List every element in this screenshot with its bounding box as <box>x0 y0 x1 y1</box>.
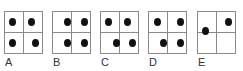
dot-icon <box>225 18 232 26</box>
dot-icon <box>81 18 88 26</box>
dot-icon <box>9 39 16 47</box>
grid-box <box>148 11 187 54</box>
dot-icon <box>177 18 184 26</box>
option-a <box>4 11 42 53</box>
option-e <box>197 11 235 53</box>
dot-icon <box>129 39 136 47</box>
dot-icon <box>81 39 88 47</box>
dot-icon <box>124 18 131 26</box>
dot-icon <box>202 27 209 35</box>
dot-icon <box>105 18 112 26</box>
dot-icon <box>28 18 35 26</box>
dot-icon <box>9 18 16 26</box>
grid-divider-horizontal <box>53 32 90 33</box>
grid-box <box>197 11 236 54</box>
grid-divider-horizontal <box>149 32 186 33</box>
dot-icon <box>64 18 71 26</box>
grid-box <box>100 11 139 54</box>
option-b <box>52 11 90 53</box>
dot-icon <box>177 39 184 47</box>
grid-divider-horizontal <box>101 32 138 33</box>
dot-icon <box>113 39 120 47</box>
grid-box <box>4 11 43 54</box>
dot-icon <box>154 18 161 26</box>
option-c <box>100 11 138 53</box>
option-label: B <box>53 57 60 68</box>
grid-box <box>52 11 91 54</box>
option-label: A <box>5 57 12 68</box>
dot-icon <box>32 39 39 47</box>
option-label: C <box>101 57 109 68</box>
option-label: D <box>149 57 157 68</box>
grid-divider-horizontal <box>5 32 42 33</box>
option-d <box>148 11 186 53</box>
dot-icon <box>160 39 167 47</box>
dot-icon <box>64 39 71 47</box>
option-label: E <box>198 57 205 68</box>
